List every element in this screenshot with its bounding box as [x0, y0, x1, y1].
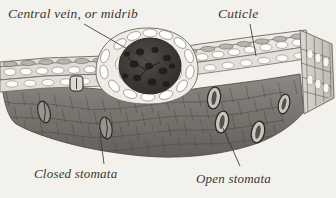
figure-canvas: Central vein, or midrib Cuticle Closed s… [0, 0, 336, 198]
label-closed-stomata: Closed stomata [34, 166, 117, 182]
label-cuticle: Cuticle [218, 6, 258, 22]
right-cut-face [298, 28, 336, 116]
closed-stoma [70, 76, 83, 91]
label-open-stomata: Open stomata [196, 171, 271, 187]
label-central-vein: Central vein, or midrib [8, 6, 138, 22]
